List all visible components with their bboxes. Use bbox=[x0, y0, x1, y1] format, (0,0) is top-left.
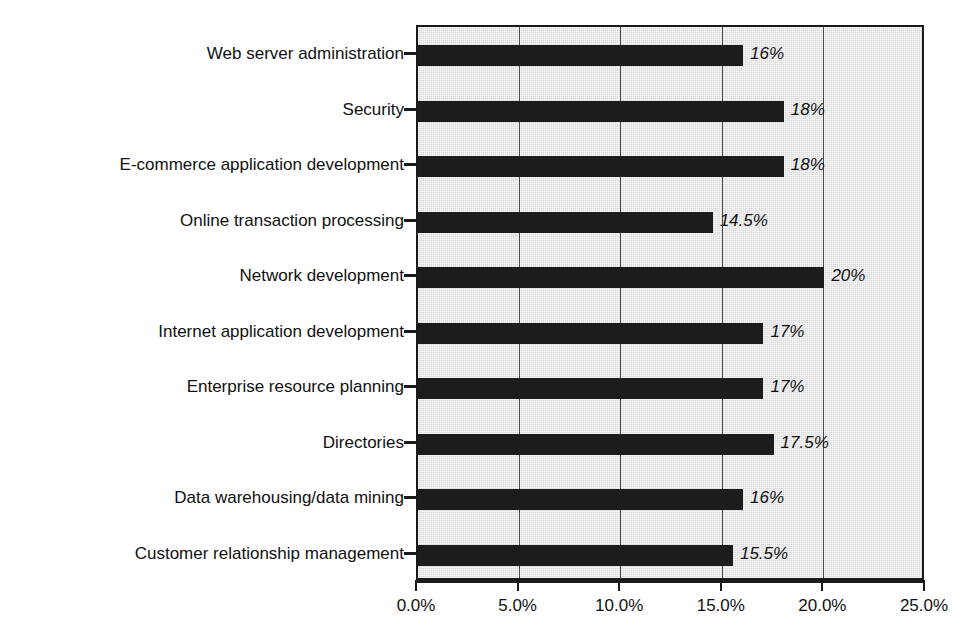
value-label: 17.5% bbox=[781, 432, 829, 453]
x-axis-tick-label: 5.0% bbox=[468, 596, 568, 616]
value-label: 14.5% bbox=[720, 210, 768, 231]
x-axis-tick-label: 25.0% bbox=[874, 596, 973, 616]
x-axis-tick bbox=[618, 580, 620, 591]
category-label: Customer relationship management bbox=[4, 543, 404, 564]
x-axis-line bbox=[416, 580, 924, 583]
plot-area bbox=[416, 25, 924, 580]
x-axis-tick-label: 0.0% bbox=[366, 596, 466, 616]
value-label: 20% bbox=[831, 265, 865, 286]
x-axis-tick bbox=[720, 580, 722, 591]
category-label: Data warehousing/data mining bbox=[4, 487, 404, 508]
bar bbox=[418, 434, 774, 455]
value-label: 18% bbox=[791, 99, 825, 120]
bar bbox=[418, 212, 713, 233]
category-label: Enterprise resource planning bbox=[4, 376, 404, 397]
bar bbox=[418, 378, 763, 399]
category-label: Internet application development bbox=[4, 321, 404, 342]
x-axis-tick bbox=[821, 580, 823, 591]
category-label: Online transaction processing bbox=[4, 210, 404, 231]
value-label: 17% bbox=[770, 321, 804, 342]
bar bbox=[418, 101, 784, 122]
bar bbox=[418, 267, 824, 288]
bar bbox=[418, 45, 743, 66]
category-label: Web server administration bbox=[4, 43, 404, 64]
bar bbox=[418, 489, 743, 510]
value-label: 17% bbox=[770, 376, 804, 397]
x-axis-tick bbox=[415, 580, 417, 591]
bar bbox=[418, 545, 733, 566]
category-label: Security bbox=[4, 99, 404, 120]
value-label: 15.5% bbox=[740, 543, 788, 564]
x-axis-tick-label: 10.0% bbox=[569, 596, 669, 616]
category-axis-labels: Web server administrationSecurityE-comme… bbox=[0, 25, 404, 580]
category-label: E-commerce application development bbox=[4, 154, 404, 175]
bar bbox=[418, 323, 763, 344]
x-axis-tick bbox=[517, 580, 519, 591]
x-axis-tick bbox=[923, 580, 925, 591]
category-label: Directories bbox=[4, 432, 404, 453]
category-label: Network development bbox=[4, 265, 404, 286]
value-label: 16% bbox=[750, 43, 784, 64]
x-axis-tick-label: 20.0% bbox=[772, 596, 872, 616]
x-axis-tick-label: 15.0% bbox=[671, 596, 771, 616]
bar bbox=[418, 156, 784, 177]
value-label: 18% bbox=[791, 154, 825, 175]
cut-off-caption bbox=[0, 638, 973, 644]
bar-chart-figure: Web server administrationSecurityE-comme… bbox=[0, 0, 973, 644]
value-label: 16% bbox=[750, 487, 784, 508]
